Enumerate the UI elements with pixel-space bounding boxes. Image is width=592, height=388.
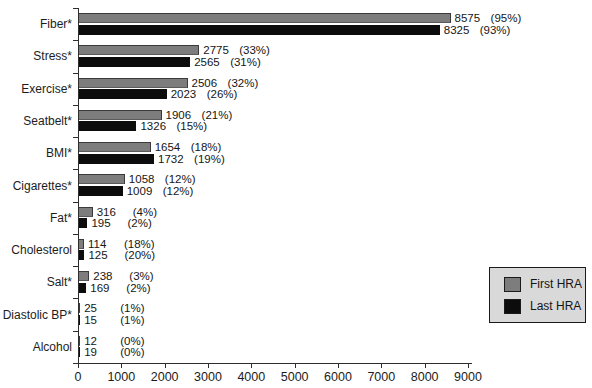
bar-value: 15 <box>84 314 120 326</box>
bar-value-label: 1009(12%) <box>127 185 194 197</box>
x-axis-tick <box>468 363 469 368</box>
bar-value: 2775 <box>203 44 239 56</box>
x-axis-tick <box>208 363 209 368</box>
category-label: Cigarettes* <box>0 179 72 193</box>
bar-first-hra <box>79 207 93 217</box>
bar-value: 238 <box>93 270 129 282</box>
bar-first-hra <box>79 271 89 281</box>
category-label: Cholesterol <box>0 243 72 257</box>
bar-last-hra <box>79 154 154 164</box>
bar-percent: (31%) <box>230 56 261 68</box>
bar-value: 169 <box>90 282 126 294</box>
bar-value: 8325 <box>444 24 480 36</box>
y-axis-tick <box>73 137 79 138</box>
y-axis-tick <box>73 169 79 170</box>
bar-value: 1058 <box>129 173 165 185</box>
bar-value-label: 2023(26%) <box>171 88 238 100</box>
bar-value: 25 <box>84 302 120 314</box>
bar-first-hra <box>79 45 199 55</box>
legend-entry-last-hra: Last HRA <box>504 299 585 314</box>
bar-value: 12 <box>84 335 120 347</box>
bar-value: 2565 <box>194 56 230 68</box>
bar-value-label: 1058(12%) <box>129 173 196 185</box>
bar-first-hra <box>79 142 151 152</box>
bar-last-hra <box>79 315 80 325</box>
bar-first-hra <box>79 239 84 249</box>
bar-last-hra <box>79 283 86 293</box>
bar-value-label: 125(20%) <box>88 249 155 261</box>
bar-last-hra <box>79 250 84 260</box>
x-axis-tick <box>338 363 339 368</box>
bar-value-label: 238(3%) <box>93 270 153 282</box>
first-hra-swatch <box>504 277 521 292</box>
bar-value-label: 1732(19%) <box>158 153 225 165</box>
bar-value-label: 195(2%) <box>91 217 151 229</box>
bar-last-hra <box>79 25 440 35</box>
bar-value-label: 316(4%) <box>97 206 157 218</box>
bar-last-hra <box>79 186 123 196</box>
x-axis-tick <box>165 363 166 368</box>
x-axis-tick <box>295 363 296 368</box>
x-tick-label: 5000 <box>271 370 319 384</box>
category-label: Fat* <box>0 211 72 225</box>
bar-percent: (4%) <box>133 206 157 218</box>
bar-percent: (1%) <box>120 314 144 326</box>
y-axis-tick <box>73 8 79 9</box>
bar-value: 2023 <box>171 88 207 100</box>
bar-percent: (12%) <box>163 185 194 197</box>
bar-first-hra <box>79 13 451 23</box>
x-tick-label: 2000 <box>141 370 189 384</box>
bar-percent: (2%) <box>126 282 150 294</box>
bar-value-label: 8575(95%) <box>455 12 522 24</box>
bar-value: 2506 <box>192 77 228 89</box>
bar-value: 316 <box>97 206 133 218</box>
y-axis-tick <box>73 73 79 74</box>
bar-value: 1732 <box>158 153 194 165</box>
x-tick-label: 4000 <box>227 370 275 384</box>
bar-percent: (12%) <box>165 173 196 185</box>
bar-first-hra <box>79 174 125 184</box>
bar-last-hra <box>79 218 87 228</box>
y-axis-tick <box>73 266 79 267</box>
bar-last-hra <box>79 121 136 131</box>
x-axis-tick <box>78 363 79 368</box>
bar-value: 195 <box>91 217 127 229</box>
legend-label-first-hra: First HRA <box>530 277 582 291</box>
bar-value-label: 1906(21%) <box>166 109 233 121</box>
bar-value: 19 <box>84 346 120 358</box>
bar-percent: (32%) <box>228 77 259 89</box>
bar-value-label: 12(0%) <box>84 335 144 347</box>
bar-value: 1654 <box>155 141 191 153</box>
bar-percent: (1%) <box>120 302 144 314</box>
bar-value: 1906 <box>166 109 202 121</box>
last-hra-swatch <box>504 299 521 314</box>
bar-value-label: 2565(31%) <box>194 56 261 68</box>
bar-percent: (20%) <box>124 249 155 261</box>
x-axis <box>74 363 472 364</box>
bar-value-label: 2506(32%) <box>192 77 259 89</box>
bar-first-hra <box>79 110 162 120</box>
y-axis-tick <box>73 202 79 203</box>
bar-percent: (21%) <box>202 109 233 121</box>
x-tick-label: 8000 <box>401 370 449 384</box>
x-tick-label: 6000 <box>314 370 362 384</box>
category-label: Diastolic BP* <box>0 308 72 322</box>
x-tick-label: 9000 <box>444 370 492 384</box>
bar-value: 125 <box>88 249 124 261</box>
bar-value-label: 15(1%) <box>84 314 144 326</box>
category-label: Seatbelt* <box>0 114 72 128</box>
bar-percent: (95%) <box>491 12 522 24</box>
category-label: Exercise* <box>0 82 72 96</box>
bar-value-label: 8325(93%) <box>444 24 511 36</box>
bar-percent: (0%) <box>120 335 144 347</box>
x-axis-tick <box>251 363 252 368</box>
bar-value-label: 1654(18%) <box>155 141 222 153</box>
bar-percent: (33%) <box>239 44 270 56</box>
x-axis-tick <box>425 363 426 368</box>
bar-last-hra <box>79 347 80 357</box>
bar-percent: (26%) <box>207 88 238 100</box>
bar-percent: (15%) <box>176 120 207 132</box>
bar-value-label: 2775(33%) <box>203 44 270 56</box>
category-label: Salt* <box>0 275 72 289</box>
bar-value: 1009 <box>127 185 163 197</box>
